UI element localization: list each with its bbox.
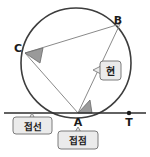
callout-tangent-line: 접선 bbox=[13, 113, 52, 134]
callout-tangent-point-label: 접점 bbox=[69, 135, 87, 146]
point-label-c: C bbox=[14, 42, 22, 55]
callout-tangent-point: 접점 bbox=[58, 127, 98, 149]
angle-marker-at-a bbox=[78, 100, 92, 113]
point-label-b: B bbox=[114, 14, 122, 27]
callout-tangent-line-label: 접선 bbox=[24, 121, 42, 132]
chord-ca-line bbox=[25, 53, 78, 113]
point-t-dot bbox=[127, 111, 131, 115]
geometry-figure: B C A T 현 접선 접점 bbox=[0, 0, 150, 157]
point-label-t: T bbox=[125, 116, 133, 129]
callout-chord: 현 bbox=[93, 61, 121, 80]
callout-chord-label: 현 bbox=[106, 65, 115, 77]
